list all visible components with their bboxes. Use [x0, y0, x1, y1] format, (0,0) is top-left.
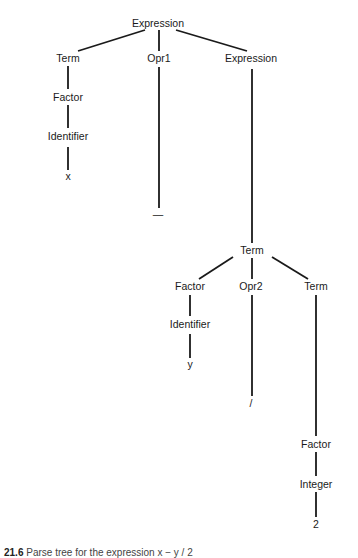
tree-node: — [152, 208, 165, 220]
tree-edge [199, 257, 233, 279]
figure-caption: 21.6 Parse tree for the expression x − y… [4, 547, 193, 558]
tree-node: Factor [174, 280, 206, 292]
figure-caption-text: Parse tree for the expression x − y / 2 [26, 547, 192, 558]
tree-edge [78, 30, 145, 51]
figure-number: 21.6 [4, 547, 23, 558]
tree-node: Opr1 [146, 52, 171, 64]
tree-node: Term [303, 280, 328, 292]
tree-node: Expression [131, 17, 185, 29]
tree-node: Identifier [169, 318, 211, 330]
tree-node: Opr2 [238, 280, 263, 292]
tree-node: y [186, 358, 193, 370]
tree-node: Integer [299, 478, 334, 490]
tree-node: Factor [300, 438, 332, 450]
tree-node: Term [55, 52, 80, 64]
tree-node: Identifier [47, 130, 89, 142]
tree-node: / [249, 397, 254, 409]
tree-node: Term [239, 244, 264, 256]
tree-node: 2 [312, 518, 320, 530]
tree-edge [272, 257, 308, 279]
tree-node: Factor [52, 91, 84, 103]
tree-node: x [64, 170, 71, 182]
tree-node: Expression [224, 52, 278, 64]
tree-edge [176, 30, 247, 51]
